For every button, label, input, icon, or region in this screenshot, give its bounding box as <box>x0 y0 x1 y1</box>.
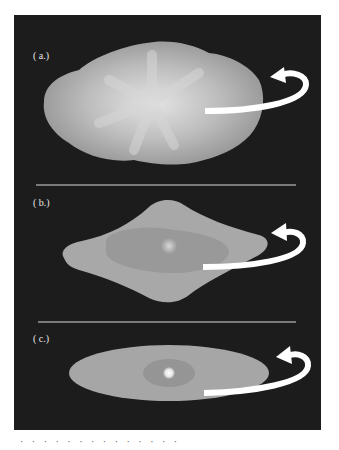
cloud-b <box>63 200 268 302</box>
cloud-a <box>44 42 263 165</box>
panel-label-c: ( c.) <box>33 333 49 344</box>
panel-label-a: ( a.) <box>33 50 49 61</box>
cut-off-caption: · · · · · · · · · · · · · · <box>20 436 320 450</box>
figure-panel: ( a.) ( b.) ( c.) <box>14 15 321 430</box>
figure-drawing <box>14 15 321 430</box>
panel-label-b: ( b.) <box>33 197 50 208</box>
